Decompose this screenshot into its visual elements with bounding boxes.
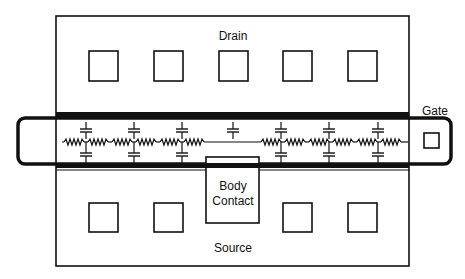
body-contact-label-line1: Body bbox=[219, 179, 246, 193]
capacitor-icon bbox=[372, 142, 384, 164]
mosfet-layout-diagram: Drain Gate bbox=[0, 0, 465, 279]
drain-contact bbox=[348, 51, 377, 81]
capacitor-icon bbox=[227, 122, 239, 139]
gate-label: Gate bbox=[422, 104, 448, 118]
capacitor-icon bbox=[80, 122, 92, 139]
source-label: Source bbox=[214, 241, 252, 255]
drain-contact bbox=[89, 51, 118, 81]
body-contact-stripe-overlap bbox=[206, 163, 259, 168]
capacitor-icon bbox=[176, 142, 188, 164]
capacitor-icon bbox=[323, 122, 335, 139]
capacitor-icon bbox=[128, 122, 140, 139]
source-contact bbox=[154, 203, 183, 232]
body-contact-label-line2: Contact bbox=[212, 194, 254, 208]
drain-label: Drain bbox=[219, 29, 248, 43]
transistor-frame bbox=[56, 16, 409, 266]
drain-contact bbox=[154, 51, 183, 81]
gate-stripe-top-edge bbox=[56, 112, 409, 119]
drain-contact bbox=[219, 51, 248, 81]
capacitor-icon bbox=[176, 122, 188, 139]
capacitor-icon bbox=[80, 142, 92, 164]
capacitor-icon bbox=[372, 122, 384, 139]
drain-contacts bbox=[89, 51, 377, 81]
drain-contact bbox=[283, 51, 312, 81]
capacitor-icon bbox=[128, 142, 140, 164]
source-contact bbox=[348, 203, 377, 232]
gate-pad-contact bbox=[424, 133, 439, 148]
source-contact bbox=[89, 203, 118, 232]
source-contact bbox=[283, 203, 312, 232]
capacitor-icon bbox=[275, 122, 287, 139]
